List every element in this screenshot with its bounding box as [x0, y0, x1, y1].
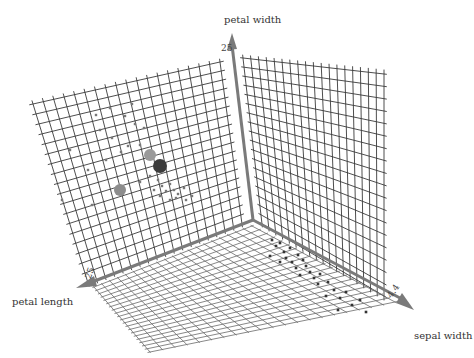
data-point: [175, 197, 177, 199]
data-point: [69, 149, 71, 151]
data-point: [283, 251, 286, 254]
data-point: [302, 259, 305, 262]
data-point: [120, 151, 122, 153]
data-point: [161, 185, 163, 187]
highlighted-marker: [114, 184, 126, 196]
data-point: [169, 199, 171, 201]
data-point: [289, 247, 292, 250]
data-point: [61, 199, 63, 201]
data-point: [185, 199, 187, 201]
data-point: [359, 299, 362, 302]
z-axis-label: petal width: [224, 14, 281, 25]
data-point: [365, 311, 368, 314]
data-point: [351, 304, 354, 307]
data-point: [149, 175, 151, 177]
data-point: [139, 181, 141, 183]
data-point: [131, 103, 133, 105]
data-point: [91, 204, 93, 206]
data-point: [111, 137, 113, 139]
data-point: [191, 195, 193, 197]
data-point: [127, 145, 129, 147]
z-axis-line: [232, 45, 253, 220]
data-point: [275, 245, 278, 248]
data-point: [279, 242, 282, 245]
data-point: [177, 193, 179, 195]
data-point: [327, 281, 330, 284]
data-point: [279, 261, 282, 264]
data-point: [139, 144, 141, 146]
data-point: [339, 297, 342, 300]
data-point: [269, 255, 272, 258]
z-axis-tick: 25: [221, 43, 232, 53]
data-point: [105, 159, 107, 161]
data-point: [299, 274, 302, 277]
right-wall-grid: [240, 55, 387, 301]
data-point: [109, 107, 111, 109]
highlighted-marker: [153, 159, 167, 173]
data-point: [285, 257, 288, 260]
data-point: [153, 189, 155, 191]
data-point: [297, 254, 300, 257]
highlighted-marker: [144, 149, 156, 161]
data-point: [99, 129, 101, 131]
data-point: [183, 187, 185, 189]
data-point: [124, 115, 126, 117]
data-point: [317, 283, 320, 286]
data-point: [345, 291, 348, 294]
data-point: [291, 261, 294, 264]
data-point: [295, 267, 298, 270]
data-point: [313, 277, 316, 280]
data-point: [305, 265, 308, 268]
data-point: [159, 195, 161, 197]
data-point: [319, 273, 322, 276]
data-point: [87, 169, 89, 171]
data-point: [157, 179, 159, 181]
x-axis-label: sepal width: [414, 330, 472, 341]
x-axis-arrow-icon: [396, 293, 414, 310]
data-point: [337, 309, 340, 312]
data-point: [95, 114, 97, 116]
left-wall-grid: [29, 59, 245, 287]
floor-grid: [92, 225, 397, 352]
data-point: [325, 295, 328, 298]
data-point: [134, 123, 136, 125]
data-point: [165, 190, 167, 192]
data-point: [173, 189, 175, 191]
y-axis-label: petal length: [12, 296, 73, 307]
data-point: [309, 271, 312, 274]
data-point: [333, 289, 336, 292]
data-point: [271, 239, 274, 242]
data-point: [143, 127, 145, 129]
data-point: [169, 183, 171, 185]
